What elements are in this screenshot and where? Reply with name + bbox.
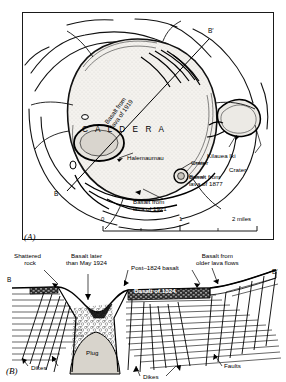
section-endpoint-b-prime-right: B′ bbox=[272, 268, 278, 275]
label-faults: Faults bbox=[224, 362, 241, 369]
label-basalt-older-flows: Basalt from older lava flows bbox=[196, 252, 239, 266]
label-basalt-1877: Basalt from lava of 1877 bbox=[189, 173, 223, 187]
scale-end-label: 2 miles bbox=[232, 216, 251, 222]
label-crater-center: Crater bbox=[191, 159, 208, 166]
scale-tick-1: 1 bbox=[179, 216, 182, 222]
vent-west bbox=[70, 161, 76, 169]
panel-a-tag: (A) bbox=[24, 232, 36, 242]
label-basalt-of-1824: Basalt of 1824 bbox=[134, 287, 176, 294]
label-halemaumau: Halemaumau bbox=[127, 154, 164, 161]
crater-1877-inner bbox=[178, 173, 185, 180]
figure-kilauea-caldera: Basalt from lava of 1919 C A L D E R A H… bbox=[0, 0, 286, 382]
label-shattered-rock: Shattered rock bbox=[14, 252, 41, 266]
section-endpoint-b-prime: B′ bbox=[208, 27, 214, 34]
panel-b-tag: (B) bbox=[6, 366, 18, 376]
label-caldera: C A L D E R A bbox=[82, 125, 166, 134]
scale-bar bbox=[101, 225, 261, 237]
section-endpoint-b: B bbox=[54, 190, 58, 197]
panel-a-map: Basalt from lava of 1919 C A L D E R A H… bbox=[22, 12, 274, 240]
label-basalt-1921: Basalt from lava of 1921 bbox=[133, 198, 167, 212]
vent-north bbox=[82, 115, 89, 120]
label-crater-right: Crater bbox=[229, 166, 246, 173]
label-post-1824-basalt: Post–1824 basalt bbox=[131, 264, 179, 271]
faults-group bbox=[206, 272, 276, 366]
panel-b-cross-section: Shattered rock Basalt later than May 192… bbox=[0, 248, 286, 382]
label-basalt-later-1924: Basalt later than May 1924 bbox=[66, 252, 107, 266]
section-endpoint-b-left: B bbox=[7, 276, 11, 283]
scale-tick-0: 0 bbox=[101, 216, 104, 222]
label-plug: Plug bbox=[86, 349, 98, 356]
label-dikes-left: Dikes bbox=[31, 364, 46, 371]
label-kilauea-iki: Kilauea Iki bbox=[207, 152, 236, 159]
label-dikes-center: Dikes bbox=[143, 373, 158, 380]
